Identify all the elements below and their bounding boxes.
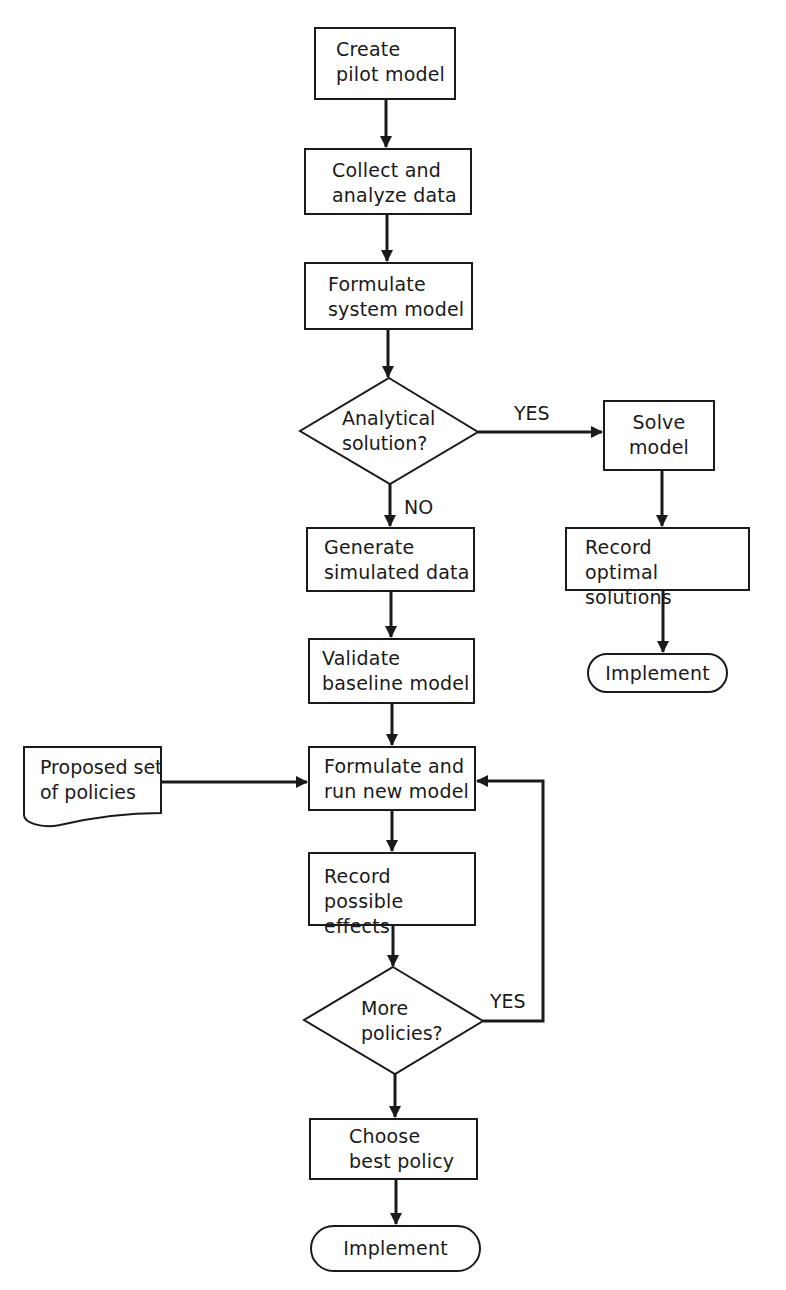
- node-solve-model: Solve model: [603, 400, 715, 471]
- node-record-optimal-solutions: Record optimal solutions: [565, 527, 750, 591]
- decision-analytical-label: Analytical solution?: [342, 406, 435, 456]
- edge-label-no-analytical: NO: [404, 496, 433, 518]
- node-proposed-set-of-policies: Proposed set of policies: [40, 755, 163, 805]
- node-formulate-run-new-model: Formulate and run new model: [308, 746, 476, 811]
- arrow-more-yes-loop: [477, 781, 543, 1021]
- node-validate-baseline-model: Validate baseline model: [308, 638, 475, 704]
- node-collect-analyze-data: Collect and analyze data: [304, 148, 472, 215]
- node-implement-right: Implement: [587, 653, 728, 693]
- edge-label-yes-more: YES: [490, 990, 526, 1012]
- node-record-possible-effects: Record possible effects: [308, 852, 476, 926]
- decision-more-policies-label: More policies?: [361, 996, 443, 1046]
- edge-label-yes-analytical: YES: [514, 402, 550, 424]
- node-generate-simulated-data: Generate simulated data: [306, 527, 475, 592]
- node-formulate-system-model: Formulate system model: [304, 262, 473, 330]
- node-create-pilot-model: Create pilot model: [314, 27, 456, 100]
- node-implement-bottom: Implement: [310, 1225, 481, 1272]
- node-choose-best-policy: Choose best policy: [309, 1118, 478, 1180]
